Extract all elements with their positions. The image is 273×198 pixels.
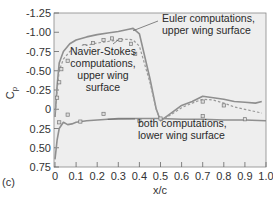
annotation-text: computations, [70, 57, 135, 69]
y-tick-label: 0.25 [30, 123, 51, 135]
x-tick-label: 0.8 [216, 170, 231, 182]
y-tick-label: 0 [45, 103, 51, 115]
y-tick-label: 0.50 [30, 142, 51, 154]
data-marker [66, 113, 69, 116]
annotation-text: Navier-Stokes [70, 45, 136, 57]
y-tick-label: -1.25 [26, 7, 51, 19]
annotation-text: surface [86, 81, 121, 93]
y-tick-label: -0.25 [26, 84, 51, 96]
data-marker [56, 96, 59, 99]
x-tick-label: 0.7 [195, 170, 210, 182]
x-tick-label: 0.3 [111, 170, 126, 182]
data-marker [222, 104, 225, 107]
data-marker [243, 118, 246, 121]
x-tick-label: 0.5 [153, 170, 168, 182]
annotation-text: lower wing surface [138, 129, 225, 141]
x-tick-label: 0.2 [90, 170, 105, 182]
data-marker [110, 37, 113, 40]
annotation-text: Euler computations, [162, 12, 255, 24]
y-tick-label: 0.75 [30, 161, 51, 173]
data-marker [58, 121, 61, 124]
data-marker [66, 59, 69, 62]
x-tick-label: 0.6 [174, 170, 189, 182]
x-tick-label: 1.0 [258, 170, 273, 182]
data-marker [60, 68, 63, 71]
x-tick-label: 0.1 [68, 170, 83, 182]
cp-chart: -1.25-1.00-0.75-0.50-0.2500.250.500.75 0… [0, 0, 273, 198]
x-tick-label: 0.9 [237, 170, 252, 182]
data-marker [102, 38, 105, 41]
y-axis-title: Cp [4, 86, 19, 99]
annotation-text: both computations, [138, 117, 227, 129]
data-marker [119, 38, 122, 41]
y-tick-label: -0.50 [26, 65, 51, 77]
figure-label: (c) [2, 176, 15, 188]
annotation-text: upper wing surface [162, 24, 251, 36]
data-marker [79, 120, 82, 123]
x-tick-label: 0 [52, 170, 58, 182]
x-tick-label: 0.4 [132, 170, 147, 182]
data-marker [102, 112, 105, 115]
annotation-text: upper wing [77, 69, 129, 81]
x-axis-title: x/c [153, 184, 168, 196]
y-tick-label: -0.75 [26, 46, 51, 58]
y-tick-label: -1.00 [26, 26, 51, 38]
data-marker [201, 100, 204, 103]
data-marker [58, 81, 61, 84]
y-axis: -1.25-1.00-0.75-0.50-0.2500.250.500.75 [26, 7, 59, 173]
